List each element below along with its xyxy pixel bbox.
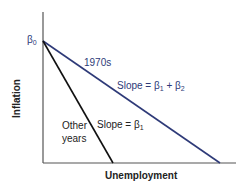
slope-1970s-mid: + β (164, 80, 181, 91)
slope-other-sub: 1 (140, 124, 144, 131)
other-years-label: Other years (62, 119, 87, 145)
other-years-line1: Other (62, 119, 87, 132)
slope-other-text: Slope = β (97, 119, 140, 130)
slope-other-label: Slope = β1 (97, 120, 144, 131)
label-1970s: 1970s (84, 58, 111, 68)
other-years-line2: years (62, 132, 87, 145)
beta0-subscript: 0 (33, 39, 37, 46)
slope-1970s-label: Slope = β1 + β2 (117, 81, 185, 92)
chart-canvas (0, 0, 250, 193)
y-axis-title: Inflation (12, 79, 22, 118)
slope-1970s-sub2: 2 (181, 85, 185, 92)
x-axis-title: Unemployment (105, 171, 177, 181)
slope-1970s-text: Slope = β (117, 80, 160, 91)
beta0-label: β0 (27, 35, 37, 46)
